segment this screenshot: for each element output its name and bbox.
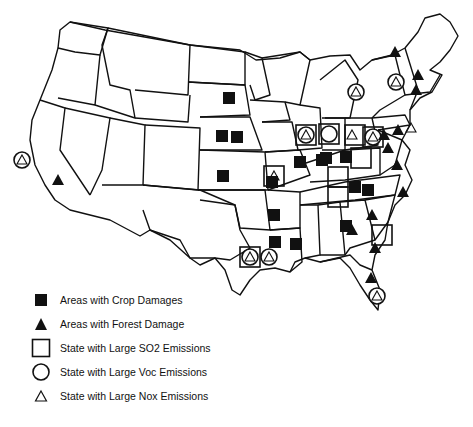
voc-circle-icon xyxy=(321,126,337,142)
crop-damage-square-icon xyxy=(231,131,243,143)
crop-damage-square-icon xyxy=(340,151,352,163)
legend-item-so2: State with Large SO2 Emissions xyxy=(30,338,211,358)
crop-damage-square-icon xyxy=(266,176,278,188)
open-triangle-icon xyxy=(30,386,52,406)
legend-item-voc: State with Large Voc Emissions xyxy=(30,362,207,382)
crop-damage-square-icon xyxy=(320,152,332,164)
legend-item-forest-damage: Areas with Forest Damage xyxy=(30,314,184,334)
us-outline xyxy=(30,14,458,310)
crop-damage-square-icon xyxy=(223,92,235,104)
crop-damage-square-icon xyxy=(290,238,302,250)
legend-item-crop-damage: Areas with Crop Damages xyxy=(30,290,183,310)
open-circle-icon xyxy=(30,362,52,382)
state-boundaries xyxy=(30,14,458,310)
legend-label: Areas with Forest Damage xyxy=(60,318,184,330)
crop-damage-square-icon xyxy=(269,236,281,248)
legend-item-nox: State with Large Nox Emissions xyxy=(30,386,208,406)
filled-triangle-icon xyxy=(30,314,52,334)
crop-damage-square-icon xyxy=(294,156,306,168)
legend-label: State with Large SO2 Emissions xyxy=(60,342,211,354)
crop-damage-square-icon xyxy=(217,170,229,182)
filled-square-icon xyxy=(30,290,52,310)
crop-damage-square-icon xyxy=(362,184,374,196)
crop-damage-square-icon xyxy=(216,130,228,142)
legend-label: State with Large Voc Emissions xyxy=(60,366,207,378)
legend-label: Areas with Crop Damages xyxy=(60,294,183,306)
crop-damage-square-icon xyxy=(268,209,280,221)
open-square-icon xyxy=(30,338,52,358)
legend-label: State with Large Nox Emissions xyxy=(60,390,208,402)
crop-damage-square-icon xyxy=(349,181,361,193)
